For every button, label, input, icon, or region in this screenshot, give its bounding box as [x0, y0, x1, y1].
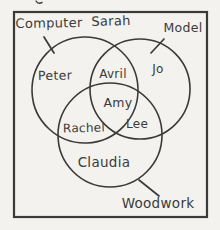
member-label-peter: Peter [38, 69, 72, 82]
woodwork-leader-line [139, 180, 159, 196]
cropped-text-fragment [36, 1, 42, 3]
set-label-model: Model [163, 22, 202, 35]
set-label-woodwork: Woodwork [122, 197, 195, 211]
member-label-claudia: Claudia [78, 156, 131, 170]
member-label-jo: Jo [152, 63, 163, 75]
member-label-amy: Amy [103, 97, 132, 110]
member-label-avril: Avril [99, 68, 127, 80]
member-label-lee: Lee [126, 118, 148, 130]
member-label-sarah: Sarah [91, 14, 131, 28]
set-label-computer: Computer [15, 16, 82, 30]
member-label-rachel: Rachel [63, 121, 105, 134]
venn-diagram-sketch: Computer Sarah Model Peter Avril Jo Amy … [0, 0, 220, 230]
